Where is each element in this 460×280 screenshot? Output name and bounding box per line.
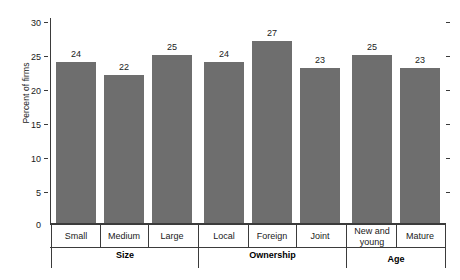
category-label-new-and-young: New and young bbox=[348, 225, 396, 247]
tick-mark-icon bbox=[44, 56, 48, 57]
y-tick-label: 25 bbox=[31, 52, 41, 62]
category-label-line1: New and bbox=[354, 226, 390, 236]
y-tick-15: 15 bbox=[31, 119, 48, 129]
y-tick-label: 10 bbox=[31, 154, 41, 164]
group-separator-left bbox=[51, 224, 52, 268]
category-label-foreign: Foreign bbox=[248, 225, 296, 247]
bar-large bbox=[152, 55, 192, 223]
right-axis-ticks bbox=[446, 0, 456, 280]
bar-joint bbox=[300, 68, 340, 223]
category-label-small: Small bbox=[52, 225, 100, 247]
y-tick-5: 5 bbox=[36, 187, 48, 197]
y-axis-line bbox=[50, 18, 51, 224]
right-tick-15 bbox=[446, 124, 450, 125]
y-tick-label: 5 bbox=[36, 188, 41, 198]
bar-value-large: 25 bbox=[152, 42, 192, 52]
y-tick-label: 0 bbox=[36, 220, 41, 230]
bar-new-and-young bbox=[352, 55, 392, 223]
group-separator-size-ownership bbox=[198, 224, 199, 268]
tick-mark-icon bbox=[44, 90, 48, 91]
bar-local bbox=[204, 62, 244, 223]
bar-value-new-and-young: 25 bbox=[352, 42, 392, 52]
bar-value-joint: 23 bbox=[300, 55, 340, 65]
bar-mature bbox=[400, 68, 440, 223]
bar-value-foreign: 27 bbox=[252, 28, 292, 38]
category-label-large: Large bbox=[148, 225, 196, 247]
bar-small bbox=[56, 62, 96, 223]
y-tick-label: 20 bbox=[31, 86, 41, 96]
bar-value-small: 24 bbox=[56, 49, 96, 59]
bar-value-local: 24 bbox=[204, 49, 244, 59]
right-tick-25 bbox=[446, 56, 450, 57]
y-tick-label: 30 bbox=[31, 18, 41, 28]
category-label-line2: young bbox=[360, 237, 385, 247]
tick-mark-icon bbox=[44, 192, 48, 193]
y-axis: 30 25 20 15 10 5 0 bbox=[0, 0, 48, 280]
y-tick-0: 0 bbox=[36, 219, 48, 229]
bar-medium bbox=[104, 75, 144, 223]
y-tick-label: 15 bbox=[31, 120, 41, 130]
bar-value-medium: 22 bbox=[104, 62, 144, 72]
bar-value-mature: 23 bbox=[400, 55, 440, 65]
y-tick-25: 25 bbox=[31, 51, 48, 61]
tick-mark-icon bbox=[44, 158, 48, 159]
group-label-size: Size bbox=[52, 250, 198, 260]
y-tick-20: 20 bbox=[31, 85, 48, 95]
bar-chart: Percent of firms 30 25 20 15 10 5 0 24 2… bbox=[0, 0, 460, 280]
category-label-medium: Medium bbox=[100, 225, 148, 247]
group-label-age: Age bbox=[347, 254, 445, 264]
right-tick-10 bbox=[446, 158, 450, 159]
group-label-ownership: Ownership bbox=[199, 250, 346, 260]
right-tick-20 bbox=[446, 90, 450, 91]
tick-mark-icon bbox=[44, 124, 48, 125]
plot-area: 24 22 25 24 27 23 25 23 bbox=[50, 0, 446, 224]
y-tick-10: 10 bbox=[31, 153, 48, 163]
group-separator-right bbox=[445, 224, 446, 268]
bar-foreign bbox=[252, 41, 292, 223]
category-axis-band: Small Medium Large Local Foreign Joint N… bbox=[50, 224, 446, 248]
right-tick-5 bbox=[446, 192, 450, 193]
category-label-mature: Mature bbox=[396, 225, 444, 247]
y-tick-30: 30 bbox=[31, 17, 48, 27]
right-tick-30 bbox=[446, 22, 450, 23]
category-label-local: Local bbox=[200, 225, 248, 247]
category-label-joint: Joint bbox=[296, 225, 344, 247]
tick-mark-icon bbox=[44, 22, 48, 23]
